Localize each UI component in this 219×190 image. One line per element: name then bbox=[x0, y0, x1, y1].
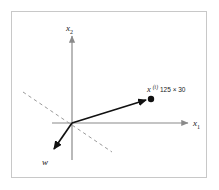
weight-vector-label: w bbox=[42, 158, 48, 167]
x-axis-label: x1 bbox=[193, 119, 200, 130]
y-axis-label: x2 bbox=[66, 24, 73, 35]
vector-diagram-figure: x2 x1 w x(i)125 × 30 bbox=[0, 0, 219, 190]
y-axis-label-subscript: 2 bbox=[70, 29, 73, 35]
x-axis-label-subscript: 1 bbox=[197, 124, 200, 130]
decision-boundary-line bbox=[23, 92, 112, 152]
data-vector-arrow bbox=[72, 100, 146, 123]
data-vector-dimensions: 125 × 30 bbox=[160, 87, 185, 94]
data-point-marker bbox=[148, 96, 154, 102]
data-vector-label-symbol: x bbox=[147, 85, 151, 94]
data-vector-label-superscript: (i) bbox=[153, 85, 158, 91]
data-vector-label: x(i)125 × 30 bbox=[147, 85, 185, 94]
weight-vector-arrow bbox=[54, 123, 72, 149]
diagram-canvas bbox=[0, 0, 219, 190]
